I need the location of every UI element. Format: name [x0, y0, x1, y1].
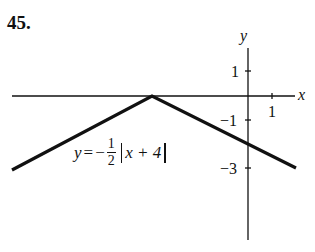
- graph: [0, 0, 315, 252]
- y-tick-label-1: 1: [231, 64, 239, 80]
- x-axis-label: x: [298, 87, 305, 103]
- y-axis-label: y: [240, 28, 247, 44]
- figure: 45. y x 1 −1 −3 1 y = − 1 2 x + 4: [0, 0, 315, 252]
- fraction-denominator: 2: [108, 154, 115, 168]
- y-tick-label-neg1: −1: [220, 113, 237, 129]
- equation-abs-inner: x + 4: [125, 143, 161, 163]
- x-tick-label-1: 1: [268, 104, 276, 120]
- equation-sign: −: [95, 143, 105, 163]
- equation-label: y = − 1 2 x + 4: [74, 137, 169, 168]
- abs-bar-right: [164, 143, 166, 163]
- fraction-numerator: 1: [108, 137, 115, 151]
- equation-lhs: y: [74, 143, 82, 163]
- equation-equals: =: [84, 143, 94, 163]
- y-tick-label-neg3: −3: [220, 161, 237, 177]
- abs-bar-left: [121, 143, 123, 163]
- problem-number: 45.: [7, 12, 31, 34]
- equation-fraction: 1 2: [107, 137, 116, 168]
